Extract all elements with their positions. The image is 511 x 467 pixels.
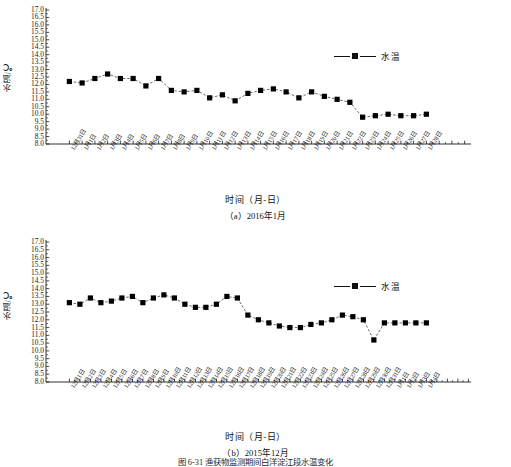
figure-water-temperature: 水温/℃ 8.08.59.09.510.010.511.011.512.012.…	[0, 0, 511, 467]
legend-label-a: 水温	[381, 50, 401, 62]
chart-panel-b: 水温/℃ 8.08.59.09.510.010.511.011.512.012.…	[0, 228, 511, 456]
legend-line-icon	[360, 286, 376, 287]
legend-b: 水温	[334, 280, 401, 292]
legend-square-marker-icon	[352, 283, 358, 289]
legend-a: 水温	[334, 50, 401, 62]
chart-panel-a: 水温/℃ 8.08.59.09.510.010.511.011.512.012.…	[0, 0, 511, 228]
legend-line-icon	[334, 286, 350, 287]
legend-line-icon	[360, 56, 376, 57]
legend-square-marker-icon	[352, 53, 358, 59]
legend-label-b: 水温	[381, 280, 401, 292]
x-axis-title-a: 时间（月-日）	[0, 193, 511, 206]
subcaption-a: （a）2016年1月	[0, 209, 511, 221]
legend-line-icon	[334, 56, 350, 57]
figure-caption: 图 6-31 渔获物监测期间白洋淀江段水温变化	[0, 457, 511, 467]
x-axis-tick-labels-b: 12月1日12月2日12月3日12月4日12月5日12月6日12月7日12月8日…	[0, 228, 511, 456]
x-axis-title-b: 时间（月-日）	[0, 430, 511, 443]
